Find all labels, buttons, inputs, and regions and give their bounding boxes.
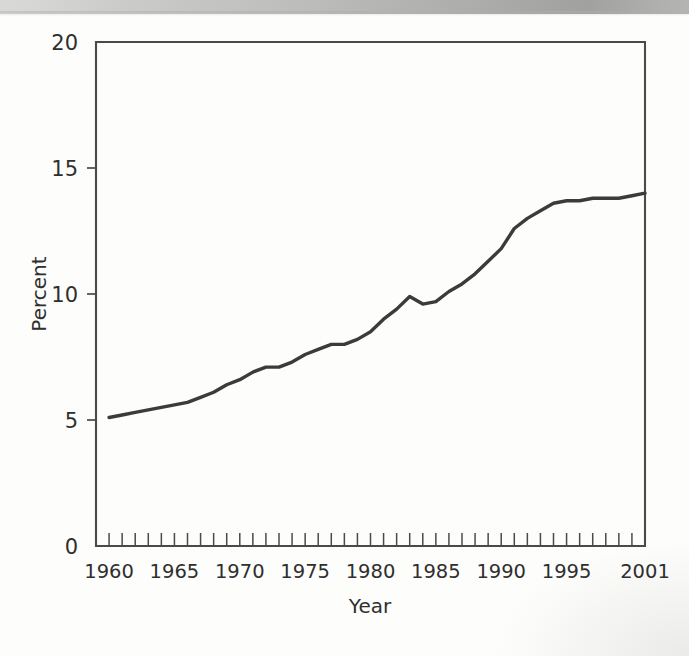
x-axis-title: Year [348,594,392,618]
line-chart: 05101520 1960196519701975198019851990199… [0,0,689,656]
data-series-group [109,193,645,417]
y-tick-label: 0 [65,535,78,559]
scanned-chart-figure: 05101520 1960196519701975198019851990199… [0,0,689,656]
x-tick-label: 1985 [411,560,461,583]
x-tick-label: 1980 [346,560,396,583]
x-tick-label: 1975 [280,560,330,583]
x-tick-label: 1995 [542,560,592,583]
x-tick-labels: 196019651970197519801985199019952001 [84,560,670,583]
y-tick-label: 20 [51,31,78,55]
x-tick-label: 1960 [84,560,134,583]
y-tick-labels: 05101520 [51,31,78,559]
series-line-percent [109,193,645,417]
x-tick-label: 2001 [620,560,670,583]
x-tick-label: 1970 [215,560,265,583]
y-axis-title: Percent [27,256,51,331]
chart-axes [96,42,645,546]
x-tick-label: 1990 [476,560,526,583]
y-tick-label: 15 [51,157,78,181]
y-tick-label: 5 [65,409,78,433]
y-tick-label: 10 [51,283,78,307]
x-tick-label: 1965 [150,560,200,583]
chart-ticks [87,168,645,546]
